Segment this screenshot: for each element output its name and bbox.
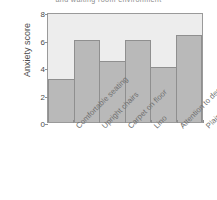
x-tick-label: Plain walls: [204, 124, 210, 130]
y-tick-mark: [45, 42, 48, 43]
x-tick-label: Attention to decor: [178, 124, 184, 130]
chart-title: and waiting room environment: [0, 0, 217, 4]
x-tick-label: Lino: [152, 124, 158, 130]
y-axis-label: Anxiety score: [22, 2, 32, 98]
x-tick-label: Carpet on floor: [126, 124, 132, 130]
y-tick-mark: [45, 97, 48, 98]
bar-chart-figure: and waiting room environment Anxiety sco…: [0, 0, 217, 200]
bar: [48, 79, 75, 122]
x-tick-label: Comfortable seating: [74, 124, 80, 130]
y-tick-mark: [45, 69, 48, 70]
y-tick-mark: [45, 14, 48, 15]
x-axis-tick-labels: Comfortable seatingUpright chairsCarpet …: [47, 124, 203, 200]
x-tick-label: Upright chairs: [100, 124, 106, 130]
